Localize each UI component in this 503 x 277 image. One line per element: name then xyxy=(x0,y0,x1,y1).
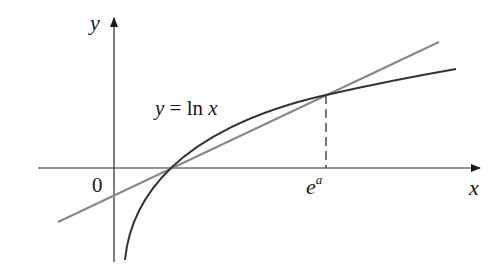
tick-label-base: e xyxy=(306,174,316,199)
y-axis-label: y xyxy=(90,12,100,34)
curve-label: y = ln x xyxy=(155,98,218,119)
ln-tangent-diagram: y x 0 y = ln x ea xyxy=(0,0,503,277)
curve-label-lhs: y xyxy=(155,96,164,120)
x-axis-label: x xyxy=(469,177,479,199)
origin-label: 0 xyxy=(92,175,103,196)
tangent-line xyxy=(58,42,439,222)
diagram-canvas xyxy=(0,0,503,277)
curve-label-arg: x xyxy=(208,96,217,120)
curve-label-eq: = xyxy=(170,96,182,120)
tick-label-e-to-a: ea xyxy=(306,176,322,198)
tick-label-exponent: a xyxy=(316,172,323,187)
curve-label-func: ln xyxy=(187,96,203,120)
